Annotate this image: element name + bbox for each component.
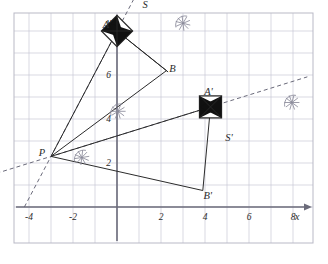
axes: [16, 14, 312, 241]
y-tick-label-6: 6: [106, 70, 111, 80]
y-tick-label-2: 2: [106, 158, 111, 168]
triangles: [51, 31, 211, 191]
triangle-PA2B2: [51, 107, 211, 191]
y-tick-label-4: 4: [106, 114, 111, 124]
plot-frame: [14, 13, 313, 243]
square-S2: [200, 96, 222, 118]
geometry-figure: -4-22468246810xyABPA'B'SS': [0, 0, 328, 264]
x-tick-label--4: -4: [25, 212, 33, 222]
triangle-PAB: [51, 31, 167, 156]
x-axis-label: x: [294, 211, 300, 222]
point-label-B-prime: B': [203, 190, 212, 201]
point-label-S: S: [143, 0, 149, 10]
x-tick-label--2: -2: [69, 212, 77, 222]
x-axis-arrow: [304, 203, 312, 210]
point-label-B: B: [169, 63, 176, 74]
point-label-A: A: [102, 19, 110, 30]
point-label-P: P: [38, 147, 46, 158]
ray-P-through-A2: [0, 77, 307, 174]
figure-canvas: -4-22468246810xyABPA'B'SS': [0, 0, 328, 264]
grid-lines: [14, 13, 313, 243]
x-tick-label-6: 6: [247, 212, 252, 222]
x-tick-label-4: 4: [203, 212, 208, 222]
x-tick-label-2: 2: [159, 212, 164, 222]
point-label-S-prime: S': [225, 132, 233, 143]
point-label-A-prime: A': [203, 86, 213, 97]
axis-tick-labels: -4-22468246810xy: [25, 0, 300, 222]
